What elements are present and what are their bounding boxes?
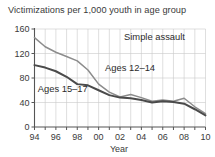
x-tick-label: 98 [72, 132, 82, 142]
y-tick-label: 80 [19, 73, 29, 83]
y-axis-tick-labels: 04080120160 [14, 24, 29, 132]
x-tick-label: 08 [179, 132, 189, 142]
x-tick-label: 10 [200, 132, 210, 142]
y-tick-label: 40 [19, 98, 29, 108]
x-tick-label: 02 [115, 132, 125, 142]
x-tick-label: 00 [94, 132, 104, 142]
x-tick-label: 96 [51, 132, 61, 142]
tick-marks [32, 29, 206, 130]
y-tick-label: 120 [14, 49, 29, 59]
series-label-2: Ages 15–17 [38, 83, 88, 94]
x-axis-tick-labels: 949698000204060810 [29, 132, 210, 142]
grid-lines [35, 29, 206, 127]
x-tick-label: 94 [29, 132, 39, 142]
line-chart-plot: 04080120160 949698000204060810 Ages 12–1… [0, 0, 215, 157]
chart-annotation-simple-assault: Simple assault [124, 31, 185, 42]
y-tick-label: 0 [24, 122, 29, 132]
series-label-1: Ages 12–14 [105, 62, 155, 73]
x-axis-title: Year [110, 144, 128, 154]
chart-figure: Victimizations per 1,000 youth in age gr… [0, 0, 215, 157]
x-tick-label: 06 [158, 132, 168, 142]
x-tick-label: 04 [136, 132, 146, 142]
y-tick-label: 160 [14, 24, 29, 34]
